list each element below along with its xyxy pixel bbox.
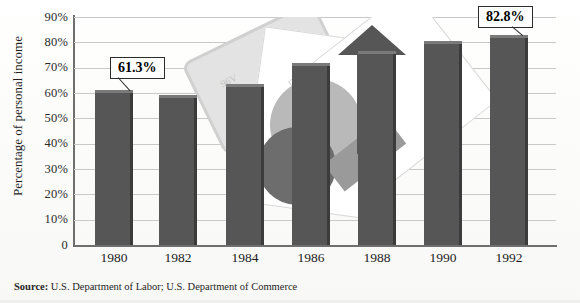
source-label: Source:: [14, 281, 48, 292]
bar-1990: [424, 41, 462, 245]
x-tick-label-1980: 1980: [79, 250, 149, 266]
bar-1980: [95, 90, 133, 245]
x-tick-label-1990: 1990: [408, 250, 478, 266]
chart-figure: Percentage of personal income 90% 80% 70…: [0, 0, 580, 303]
y-tick-label-40: 40%: [8, 136, 68, 151]
y-tick-label-30: 30%: [8, 162, 68, 177]
x-tick-label-1982: 1982: [143, 250, 213, 266]
bar-top-1984: [226, 84, 264, 87]
source-line: Source: U.S. Department of Labor; U.S. D…: [14, 281, 297, 292]
x-tick-label-1988: 1988: [342, 250, 412, 266]
bar-1984: [226, 84, 264, 245]
y-tick-label-0: 0: [8, 238, 68, 253]
gridline-80: [74, 42, 556, 43]
y-tick-label-70: 70%: [8, 60, 68, 75]
y-tick-label-90: 90%: [8, 10, 68, 25]
y-tick-label-20: 20%: [8, 187, 68, 202]
y-tick-label-10: 10%: [8, 212, 68, 227]
data-callout-1992: 82.8%: [478, 6, 533, 28]
bar-top-1980: [95, 90, 133, 93]
bar-1982: [159, 95, 197, 245]
bar-top-1988: [358, 51, 396, 54]
y-tick-label-60: 60%: [8, 86, 68, 101]
x-tick-label-1984: 1984: [210, 250, 280, 266]
bar-1992: [490, 35, 528, 245]
source-text: U.S. Department of Labor; U.S. Departmen…: [51, 281, 297, 292]
x-tick-label-1992: 1992: [474, 250, 544, 266]
data-callout-1980: 61.3%: [110, 57, 165, 79]
bar-top-1986: [292, 63, 330, 66]
bar-1986: [292, 63, 330, 245]
bar-top-1990: [424, 41, 462, 44]
y-tick-label-50: 50%: [8, 111, 68, 126]
x-tick-label-1986: 1986: [276, 250, 346, 266]
y-tick-label-80: 80%: [8, 35, 68, 50]
x-axis-line: [73, 245, 557, 247]
bar-1988: [358, 51, 396, 245]
bar-top-1982: [159, 95, 197, 98]
